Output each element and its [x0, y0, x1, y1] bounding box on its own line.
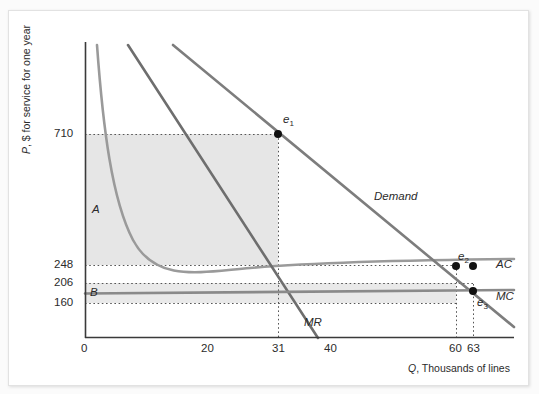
y-axis-title-text: , $ for service for one year — [20, 25, 32, 147]
e1-marker — [274, 130, 282, 138]
y-axis-title-symbol: P — [20, 147, 32, 154]
e3-label: e3 — [477, 296, 488, 311]
chart-canvas — [0, 0, 539, 394]
x-tick-0: 0 — [81, 342, 87, 354]
x-axis-title-symbol: Q — [408, 362, 416, 374]
region-b-label: B — [90, 286, 98, 298]
e1-label: e1 — [283, 113, 294, 128]
mr-label: MR — [304, 316, 322, 328]
x-tick-20: 20 — [201, 342, 214, 354]
e2b-marker — [469, 262, 477, 270]
y-tick-710: 710 — [54, 127, 73, 139]
e3-marker — [469, 287, 477, 295]
y-axis-title: P, $ for service for one year — [20, 34, 32, 154]
x-tick-31: 31 — [272, 342, 285, 354]
e1-sub: 1 — [289, 119, 293, 128]
y-tick-160: 160 — [54, 296, 73, 308]
x-axis-title-text: , Thousands of lines — [416, 362, 510, 374]
y-tick-206: 206 — [54, 276, 73, 288]
x-axis-title: Q, Thousands of lines — [408, 362, 510, 374]
x-tick-40: 40 — [324, 342, 337, 354]
region-a-label: A — [92, 203, 100, 215]
e3-sub: 3 — [483, 302, 487, 311]
shaded-region-a — [85, 134, 278, 265]
e2-sub: 2 — [464, 256, 468, 265]
y-tick-248: 248 — [54, 258, 73, 270]
ac-label: AC — [496, 258, 512, 270]
e2-label: e2 — [458, 250, 469, 265]
demand-label: Demand — [374, 190, 417, 202]
mc-label: MC — [496, 290, 514, 302]
figure-page: P, $ for service for one year Q, Thousan… — [0, 0, 539, 394]
x-tick-63: 63 — [467, 342, 480, 354]
x-tick-60: 60 — [449, 342, 462, 354]
